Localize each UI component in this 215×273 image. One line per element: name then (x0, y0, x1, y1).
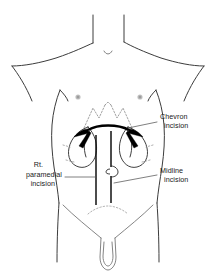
umbilicus-group (106, 166, 118, 177)
nipples-group (75, 94, 142, 99)
abdominal-incisions-figure: Chevron incision Midline incision Rt. pa… (0, 0, 215, 273)
genital-outline (100, 238, 116, 270)
rt-paramedial-label-line2: paramedial (26, 170, 62, 179)
left-hip-thigh-line (57, 203, 59, 262)
genital-inner-outline (103, 242, 113, 266)
right-axilla-flank-line (148, 90, 156, 101)
left-nipple-icon (77, 96, 80, 99)
rt-paramedial-label-line1: Rt. (34, 160, 43, 169)
midline-incision-label-line1: Midline (160, 166, 183, 175)
umbilicus-ring (111, 166, 118, 177)
chevron-leader-line (128, 122, 157, 128)
vertical-incisions-group (96, 131, 111, 205)
umbilicus-inner-mark (106, 169, 110, 174)
left-axilla-flank-line (60, 90, 68, 101)
right-nipple-icon (139, 96, 142, 99)
sternal-notch-mark (104, 51, 112, 54)
torso-outline-group (12, 15, 204, 270)
chevron-incision-arc (88, 126, 129, 131)
illustration-canvas: Chevron incision Midline incision Rt. pa… (0, 0, 215, 273)
left-shoulder-line (12, 43, 93, 66)
xiphoid-dotted (105, 102, 111, 105)
rt-paramedial-label-line3: incision (31, 179, 55, 188)
right-hip-thigh-line (157, 203, 159, 262)
right-torso-side (156, 90, 164, 203)
flank-dotted-group (63, 145, 153, 214)
left-arm-inner-line (12, 66, 32, 101)
midline-leader-line (114, 175, 157, 183)
left-inguinal-crease (63, 205, 101, 238)
costal-margin-group (84, 102, 132, 128)
pubic-hairline-dotted (88, 206, 128, 214)
right-arm-inner-line (184, 66, 204, 101)
right-shoulder-line (124, 42, 204, 66)
midline-incision-label-line2: incision (164, 175, 188, 184)
chevron-incision-label-line2: incision (164, 121, 188, 130)
right-inguinal-crease (115, 205, 153, 238)
chevron-incision-label-line1: Chevron (160, 112, 188, 121)
